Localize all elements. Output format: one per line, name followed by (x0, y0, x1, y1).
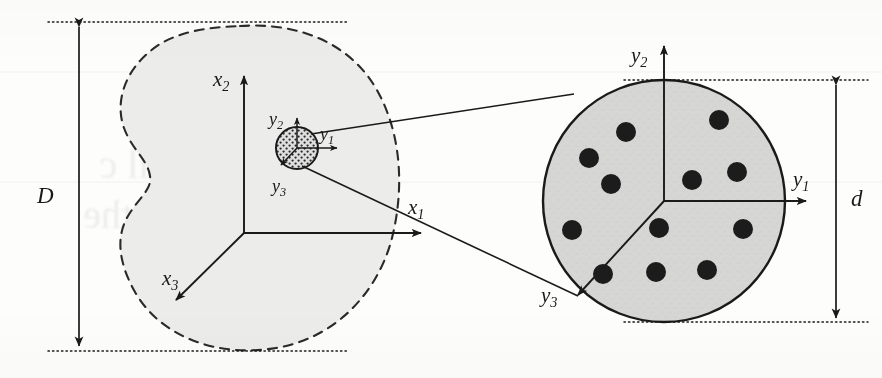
inclusion-3 (579, 148, 599, 168)
macroscopic-body-outline (120, 26, 399, 351)
rve-label-y2: y2 (629, 43, 647, 70)
inclusion-11 (646, 262, 666, 282)
dimension-label-D: D (36, 183, 54, 208)
rve-label-y1: y1 (791, 167, 809, 194)
inclusion-7 (562, 220, 582, 240)
diagram-canvas: Hall c on the 1952 x2 x1 x3 (0, 0, 882, 378)
inclusion-5 (682, 170, 702, 190)
dimension-label-d: d (851, 186, 863, 211)
rve-label-y3: y3 (539, 283, 557, 310)
inclusion-8 (649, 218, 669, 238)
inclusion-6 (727, 162, 747, 182)
figure-container: Hall c on the 1952 x2 x1 x3 (0, 0, 882, 378)
inclusion-10 (593, 264, 613, 284)
rve-magnified-group: y2 y1 y3 (539, 43, 809, 322)
inclusion-1 (616, 122, 636, 142)
axis-label-x1: x1 (407, 195, 424, 222)
inclusion-12 (697, 260, 717, 280)
inclusion-2 (709, 110, 729, 130)
inclusion-9 (733, 219, 753, 239)
inclusion-4 (601, 174, 621, 194)
